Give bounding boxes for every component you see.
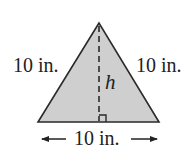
triangle-figure: h 10 in. 10 in. 10 in. xyxy=(0,0,196,149)
height-label: h xyxy=(105,70,116,94)
base-label: 10 in. xyxy=(74,127,120,149)
right-side-label: 10 in. xyxy=(136,54,182,76)
left-side-label: 10 in. xyxy=(13,54,59,76)
triangle-diagram: h 10 in. 10 in. 10 in. xyxy=(0,0,196,149)
